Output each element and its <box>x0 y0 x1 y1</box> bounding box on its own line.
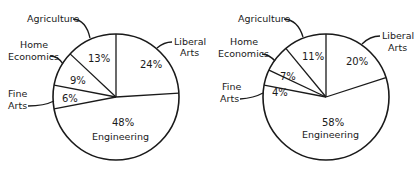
pie-2-pct-home-economics: 7% <box>280 71 296 82</box>
pie-2-arrow-fine-arts <box>240 93 263 99</box>
charts-canvas: 24% 13% 9% 6% 48% Engineering Agricultur… <box>0 0 418 170</box>
pie-2-label-engineering: Engineering <box>302 129 359 140</box>
pie-1-pct-fine-arts: 6% <box>62 93 78 104</box>
pie-1-arrow-fine-arts <box>28 101 54 106</box>
pie-1-pct-engineering: 48% <box>112 117 134 128</box>
pie-2-label-agriculture: Agriculture <box>238 13 290 24</box>
pie-1-arrow-liberal-arts <box>157 42 172 48</box>
pie-1-label-fine: Fine <box>8 88 27 99</box>
pie-1-pct-agriculture: 13% <box>88 53 110 64</box>
pie-2-label-arts: Arts <box>388 42 407 53</box>
pie-2-arrow-liberal-arts <box>362 36 380 44</box>
pie-2-label-fine: Fine <box>222 81 241 92</box>
pie-1-pct-home-economics: 9% <box>70 75 86 86</box>
pie-1-label-fine-arts: Arts <box>8 100 27 111</box>
pie-chart-1: 24% 13% 9% 6% 48% Engineering Agricultur… <box>8 13 206 160</box>
pie-2-label-fine-arts: Arts <box>220 93 239 104</box>
pie-2-label-economics: Economics <box>218 48 269 59</box>
pie-2-pct-fine-arts: 4% <box>272 87 288 98</box>
pie-2-label-home: Home <box>230 36 258 47</box>
pie-1-label-agriculture: Agriculture <box>27 13 79 24</box>
pie-1-label-home: Home <box>20 39 48 50</box>
pie-2-pct-liberal-arts: 20% <box>346 56 368 67</box>
pie-1-label-liberal: Liberal <box>174 36 206 47</box>
pie-2-pct-agriculture: 11% <box>302 51 324 62</box>
pie-1-label-engineering: Engineering <box>92 131 149 142</box>
pie-2-label-liberal: Liberal <box>382 30 414 41</box>
pie-1-pct-liberal-arts: 24% <box>140 59 162 70</box>
pie-1-label-arts: Arts <box>180 47 199 58</box>
pie-chart-2: 20% 11% 7% 4% 58% Engineering Agricultur… <box>218 13 414 160</box>
pie-2-pct-engineering: 58% <box>322 117 344 128</box>
